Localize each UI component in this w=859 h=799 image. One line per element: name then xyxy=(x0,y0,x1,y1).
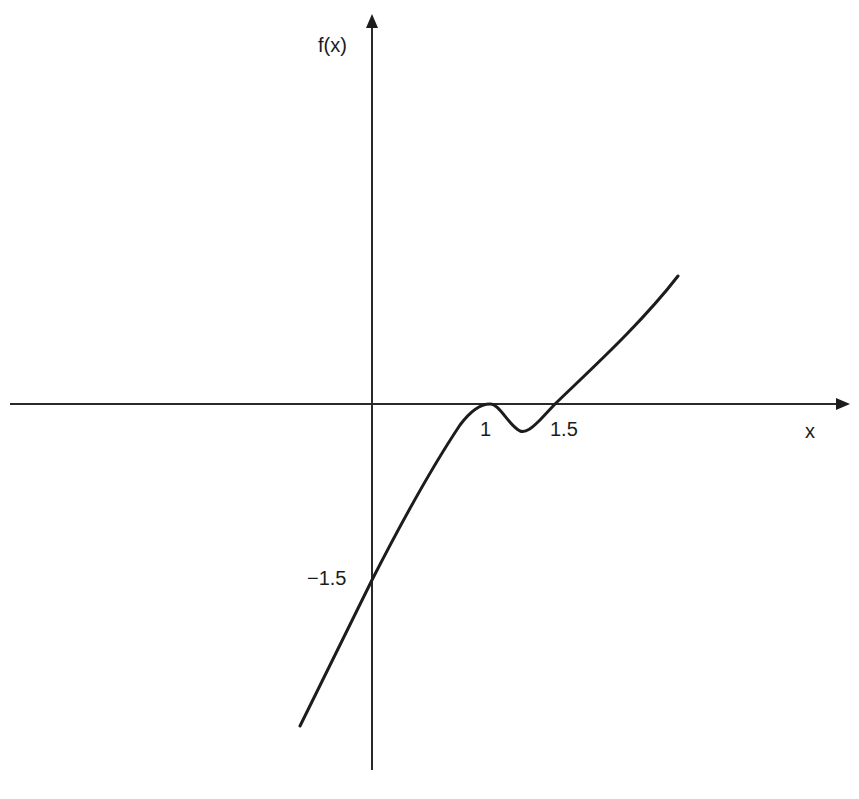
function-graph xyxy=(0,0,859,799)
x-axis-arrow-icon xyxy=(836,398,850,410)
function-curve xyxy=(300,276,678,726)
x-tick-1-5: 1.5 xyxy=(550,418,578,441)
y-axis-label: f(x) xyxy=(318,34,347,57)
y-tick-neg-1-5: −1.5 xyxy=(307,567,346,590)
y-axis-arrow-icon xyxy=(366,14,378,28)
x-tick-1: 1 xyxy=(480,418,491,441)
x-axis-label: x xyxy=(805,420,815,443)
